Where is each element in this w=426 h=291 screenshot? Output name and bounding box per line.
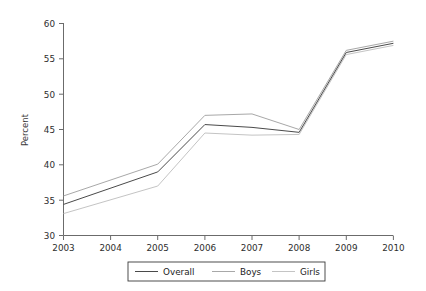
x-tick-label-2005: 2005 (147, 243, 169, 253)
y-tick-label-45: 45 (44, 125, 55, 135)
x-tick-label-2004: 2004 (99, 243, 122, 253)
y-tick-label-60: 60 (44, 19, 56, 29)
legend-label-girls: Girls (300, 267, 320, 277)
y-tick-label-30: 30 (44, 231, 56, 241)
y-tick-label-35: 35 (44, 196, 55, 206)
x-tick-label-2008: 2008 (288, 243, 310, 253)
line-chart: 60 55 50 45 40 35 30 2003 2004 2005 2006… (0, 0, 426, 291)
y-tick-label-55: 55 (44, 54, 55, 64)
chart-figure: 60 55 50 45 40 35 30 2003 2004 2005 2006… (0, 0, 426, 291)
x-tick-label-2003: 2003 (52, 243, 74, 253)
legend-label-overall: Overall (163, 267, 194, 277)
y-tick-label-40: 40 (44, 160, 56, 170)
y-axis-title: Percent (20, 113, 30, 146)
x-tick-label-2009: 2009 (335, 243, 357, 253)
legend-label-boys: Boys (240, 267, 262, 277)
chart-legend: Overall Boys Girls (128, 262, 325, 281)
x-tick-label-2010: 2010 (382, 243, 405, 253)
y-tick-label-50: 50 (44, 90, 56, 100)
x-tick-label-2006: 2006 (194, 243, 217, 253)
x-tick-label-2007: 2007 (241, 243, 263, 253)
